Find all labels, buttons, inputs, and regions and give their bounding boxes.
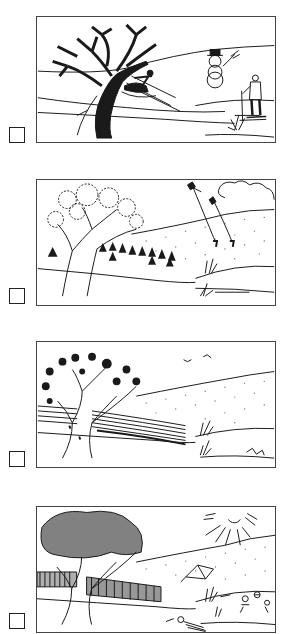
checkbox-autumn[interactable] [9,288,25,304]
autumn-scene-drawing [37,180,275,305]
leafy-tree [41,511,142,624]
checkbox-spring[interactable] [9,451,25,467]
skier [228,75,266,130]
dotted-field [145,546,265,579]
flowers-and-grass [200,421,264,455]
spring-scene-drawing [37,342,275,467]
ploughed-rows [38,406,186,444]
scene-winter-illustration: Bare tree, child sledding, snowman with … [36,16,276,143]
blossoming-tree [42,353,140,458]
bare-tree [53,25,156,138]
winter-scene-drawing [37,17,275,142]
haystacks [48,242,176,267]
grass-tufts [200,259,249,296]
snowman [207,49,239,87]
checkbox-summer[interactable] [9,613,25,629]
tent [181,565,214,582]
scene-spring-illustration: Tree with blossoms, ploughed field rows,… [36,341,276,468]
leafy-tree [48,184,143,296]
dotted-field [145,381,264,424]
checkbox-winter[interactable] [9,127,25,143]
scene-summer-illustration: Tree in full leaf, tall corn field, brig… [36,506,276,633]
scene-autumn-illustration: Tree with leaves falling, haystacks in f… [36,179,276,306]
sun [204,513,258,545]
summer-scene-drawing [37,507,275,632]
corn-field [37,572,161,602]
